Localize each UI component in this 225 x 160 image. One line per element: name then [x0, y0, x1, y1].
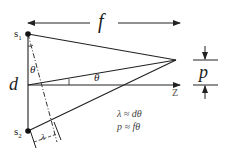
equation-lambda: λ ≈ dθ [117, 109, 142, 119]
lambda-label: λ [41, 133, 45, 142]
theta-label-center: θ [94, 72, 99, 83]
diagram-canvas [0, 0, 225, 160]
lambda-tick-right [54, 122, 61, 140]
theta-label-left: θ [30, 64, 35, 75]
s1-sub: 1 [18, 34, 22, 42]
source-s2-dot [25, 128, 31, 134]
lambda-arrow [34, 134, 57, 142]
ray-s2 [28, 60, 176, 131]
source-s1-dot [25, 31, 31, 37]
s2-label: s2 [14, 126, 22, 140]
z-axis-label: Z [172, 88, 178, 98]
p-label: p [199, 63, 208, 81]
f-label: f [98, 11, 104, 31]
d-label: d [9, 75, 18, 93]
ray-s1 [28, 34, 176, 60]
ray-center [28, 60, 176, 85]
lambda-tick-left [30, 130, 36, 148]
s2-sub: 2 [18, 132, 22, 140]
wavefront-dashed [28, 34, 57, 142]
equation-p: p ≈ fθ [117, 122, 140, 132]
s1-label: s1 [14, 28, 22, 42]
